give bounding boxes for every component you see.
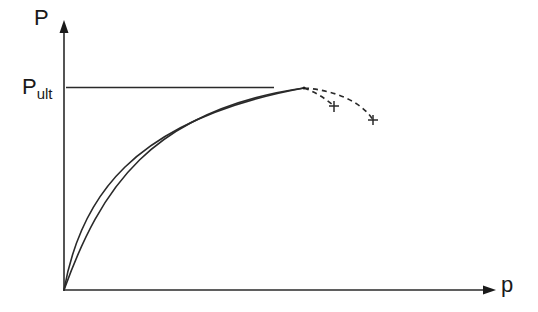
y-axis-label: P: [34, 5, 49, 31]
lower-curve: [64, 88, 304, 290]
ultimate-load-label-main: P: [22, 74, 37, 99]
diagram-canvas: [0, 0, 538, 312]
x-axis-arrow-icon: [483, 286, 496, 295]
failure-marker-2-icon: [368, 115, 378, 125]
x-axis-label: p: [501, 272, 513, 298]
ultimate-load-label: Pult: [22, 74, 53, 102]
y-axis-arrow-icon: [60, 20, 69, 33]
upper-curve: [64, 88, 304, 290]
post-peak-branch-1: [304, 88, 334, 106]
ultimate-load-label-sub: ult: [37, 85, 53, 102]
peak-point-icon: [303, 87, 306, 90]
